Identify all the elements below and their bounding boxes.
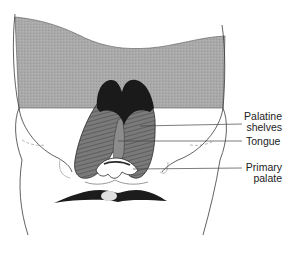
maxillary-process-left	[19, 108, 72, 172]
fold-right	[160, 162, 168, 173]
label-palatine-shelves-line2: shelves	[240, 122, 282, 133]
label-tongue: Tongue	[246, 136, 280, 147]
cheek-fold-left	[22, 140, 46, 145]
lip-line	[85, 180, 148, 184]
cheek-fold-right	[190, 141, 214, 145]
maxillary-process-right	[162, 108, 223, 172]
label-palatine-shelves: Palatine shelves	[240, 111, 282, 133]
palate-development-diagram: Palatine shelves Tongue Primary palate	[0, 0, 296, 253]
label-tongue-line1: Tongue	[246, 136, 280, 147]
label-primary-palate: Primary palate	[240, 162, 282, 184]
label-primary-palate-line2: palate	[240, 173, 282, 184]
mouth-tongue-tip	[101, 191, 117, 201]
leader-line-primary-palate	[133, 168, 242, 169]
